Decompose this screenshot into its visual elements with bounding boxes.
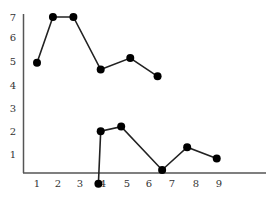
series-layer [33, 13, 221, 188]
line-chart: 1 2 3 4 5 6 7 1 2 3 4 5 6 7 8 9 [0, 0, 278, 204]
y-tick-label: 6 [10, 32, 16, 43]
data-point-marker [94, 180, 102, 188]
data-point-marker [158, 166, 166, 174]
x-tick-labels: 1 2 3 4 5 6 7 8 9 [34, 178, 222, 189]
x-tick-label: 7 [169, 178, 175, 189]
y-tick-label: 2 [10, 126, 16, 137]
data-point-marker [97, 66, 105, 74]
data-point-marker [154, 72, 162, 80]
data-point-marker [183, 143, 191, 151]
y-tick-label: 3 [10, 103, 16, 114]
y-tick-label: 4 [10, 80, 16, 91]
x-tick-label: 3 [77, 178, 83, 189]
x-tick-label: 8 [193, 178, 199, 189]
data-point-marker [49, 13, 57, 21]
series-1 [33, 13, 162, 80]
x-tick-label: 2 [55, 178, 61, 189]
data-point-marker [33, 59, 41, 67]
data-point-marker [126, 54, 134, 62]
data-point-marker [97, 127, 105, 135]
x-tick-label: 5 [124, 178, 130, 189]
series-2 [94, 123, 220, 188]
series-line [98, 127, 216, 184]
x-tick-label: 6 [146, 178, 152, 189]
y-tick-label: 7 [10, 12, 16, 23]
y-tick-label: 5 [10, 56, 16, 67]
x-tick-label: 9 [216, 178, 222, 189]
y-tick-labels: 1 2 3 4 5 6 7 [10, 12, 16, 160]
data-point-marker [117, 123, 125, 131]
y-tick-label: 1 [10, 149, 16, 160]
x-tick-label: 1 [34, 178, 40, 189]
data-point-marker [69, 13, 77, 21]
data-point-marker [213, 155, 221, 163]
